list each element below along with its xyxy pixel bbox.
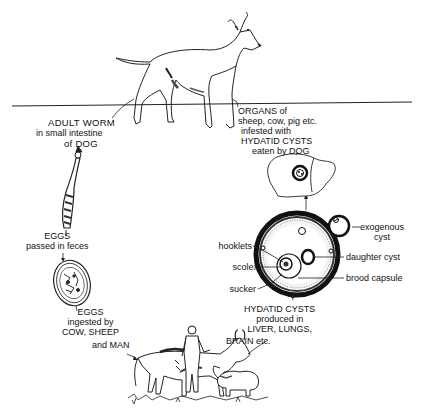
eggs-ingested-title: EGGS (62, 307, 119, 317)
adult-worm-label: ADULT WORM (48, 118, 115, 128)
eggs-ingested-desc: ingested by (62, 317, 119, 327)
cyst-word: cyst (360, 232, 404, 242)
eggs-passed-title: EGGS (26, 231, 89, 241)
hydatid-cysts-brain: BRAIN etc. (226, 336, 271, 346)
eggs-ingested-hosts: COW, SHEEP (62, 327, 119, 337)
organs-label: ORGANS of sheep, cow, pig etc. infested … (238, 106, 317, 156)
adult-worm-location: in small intestine (36, 128, 103, 138)
organs-infested: infested with (238, 126, 317, 136)
hydatid-cysts-desc: produced in (244, 314, 315, 324)
eggs-ingested-label: EGGS ingested by COW, SHEEP (62, 307, 119, 337)
organs-title: ORGANS of (238, 106, 317, 116)
scolex-label: scolex (218, 262, 258, 272)
ground-line (12, 102, 412, 106)
organs-eaten: eaten by DOG (238, 146, 317, 156)
life-cycle-diagram (0, 0, 422, 411)
hydatid-cysts-label: HYDATID CYSTS produced in LIVER, LUNGS, (244, 304, 315, 334)
hydatid-cysts-organs: LIVER, LUNGS, (244, 324, 315, 334)
adult-worm-illustration (63, 146, 82, 228)
daughter-cyst-label: daughter cyst (346, 252, 400, 262)
exogenous-cyst-label: exogenous cyst (360, 222, 404, 242)
eggs-passed-desc: passed in feces (26, 241, 89, 251)
brood-capsule-label: brood capsule (346, 273, 403, 283)
eggs-ingested-man: and MAN (92, 340, 130, 350)
hydatid-cysts-title: HYDATID CYSTS (244, 304, 315, 314)
organs-cysts: HYDATID CYSTS (238, 136, 317, 146)
organs-hosts: sheep, cow, pig etc. (238, 116, 317, 126)
hydatid-cyst-illustration (256, 213, 338, 295)
eggs-passed-label: EGGS passed in feces (26, 231, 89, 251)
hydatid-cysts-brain-label: BRAIN etc. (226, 336, 271, 346)
eggs-ingested-man-label: and MAN (92, 340, 130, 350)
adult-worm-host-label: of DOG (64, 139, 98, 149)
egg-illustration (49, 256, 96, 310)
sucker-label: sucker (216, 284, 256, 294)
adult-worm-host: of DOG (64, 139, 98, 149)
hooklets-label: hooklets (212, 241, 252, 251)
exogenous-cyst-illustration (329, 216, 349, 236)
adult-worm-location-label: in small intestine (36, 128, 103, 138)
exogenous-word: exogenous (360, 222, 404, 232)
adult-worm-title: ADULT WORM (48, 118, 115, 128)
